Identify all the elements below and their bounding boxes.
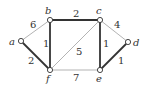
edge-weight-c-d: 4: [114, 19, 120, 30]
node-a: [18, 38, 23, 43]
edge-weight-c-f: 5: [76, 46, 82, 57]
edge-weight-a-f: 2: [28, 55, 34, 66]
node-e: [97, 67, 102, 72]
node-label-c: c: [96, 5, 102, 16]
graph-canvas: 624215171abcdef: [0, 0, 145, 87]
node-label-e: e: [96, 73, 102, 84]
edge-weight-f-e: 7: [73, 72, 79, 83]
node-c: [97, 17, 102, 22]
edge-weight-c-e: 1: [103, 38, 109, 49]
node-b: [47, 17, 52, 22]
node-label-a: a: [9, 36, 15, 47]
edge-c-f: [50, 20, 100, 70]
edge-weight-a-b: 6: [30, 19, 36, 30]
node-label-b: b: [45, 5, 51, 16]
edge-weight-b-f: 1: [43, 38, 49, 49]
node-d: [125, 39, 130, 44]
node-f: [47, 67, 52, 72]
node-label-f: f: [45, 73, 52, 84]
edge-weight-e-d: 1: [118, 55, 124, 66]
edge-weight-b-c: 2: [73, 8, 79, 19]
node-label-d: d: [133, 37, 139, 48]
weighted-graph-diagram: 624215171abcdef: [0, 0, 145, 87]
